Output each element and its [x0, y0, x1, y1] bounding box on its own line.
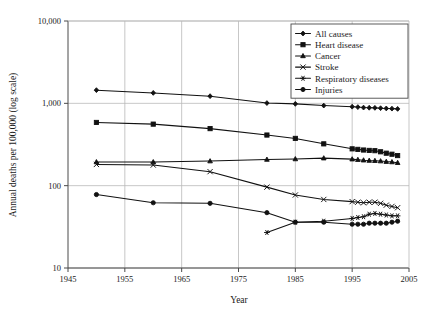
data-point: [395, 106, 399, 111]
data-point: [293, 220, 297, 224]
data-point: [94, 120, 98, 124]
chart-container: 1945195519651975198519952005 101001,0001…: [0, 0, 437, 313]
data-point: [367, 148, 371, 152]
x-tick-label: 2005: [401, 274, 418, 284]
data-point: [356, 105, 360, 110]
data-point: [208, 201, 212, 205]
data-point: [301, 87, 305, 91]
y-tick-labels: 101001,00010,000: [38, 16, 61, 273]
data-point: [396, 219, 400, 223]
chart-legend: All causesHeart diseaseCancerStrokeRespi…: [291, 24, 408, 98]
data-point: [373, 105, 377, 110]
data-point: [208, 127, 212, 131]
data-point: [356, 157, 361, 161]
legend-label: Stroke: [315, 62, 339, 72]
x-tick-label: 1985: [287, 274, 304, 284]
data-point: [293, 101, 297, 106]
data-point: [265, 211, 269, 215]
series-injuries: [94, 192, 399, 226]
x-axis-title: Year: [230, 295, 248, 305]
x-tick-labels: 1945195519651975198519952005: [60, 274, 418, 284]
data-point: [378, 221, 382, 225]
data-point: [384, 151, 388, 155]
data-point: [94, 192, 98, 196]
data-point: [265, 133, 269, 137]
data-point: [208, 94, 212, 99]
series-stroke: [94, 162, 400, 210]
data-series-group: [94, 88, 401, 235]
data-point: [322, 142, 326, 146]
data-point: [356, 222, 360, 226]
data-point: [366, 212, 372, 217]
data-point: [265, 101, 269, 106]
data-point: [350, 157, 355, 161]
data-point: [390, 220, 394, 224]
data-point: [378, 159, 383, 163]
y-tick-label: 10,000: [38, 16, 61, 26]
data-point: [356, 147, 360, 151]
data-point: [389, 213, 395, 218]
data-point: [293, 136, 297, 140]
data-point: [151, 90, 155, 95]
data-point: [361, 105, 365, 110]
y-tick-label: 100: [48, 181, 61, 191]
data-point: [390, 160, 395, 164]
x-tick-label: 1945: [60, 274, 77, 284]
data-point: [301, 43, 305, 47]
legend-label: All causes: [315, 29, 353, 39]
data-point: [151, 201, 155, 205]
legend-label: Respiratory diseases: [315, 74, 389, 84]
data-point: [373, 149, 377, 153]
data-point: [151, 122, 155, 126]
data-point: [94, 88, 98, 93]
y-axis-title: Annual deaths per 100,000 (log scale): [8, 73, 19, 218]
data-point: [378, 106, 382, 111]
data-point: [322, 103, 326, 108]
data-point: [367, 221, 371, 225]
series-cancer: [94, 156, 400, 165]
data-point: [208, 159, 213, 163]
x-tick-label: 1965: [173, 274, 190, 284]
y-tick-label: 1,000: [42, 98, 61, 108]
line-chart: 1945195519651975198519952005 101001,0001…: [0, 0, 437, 313]
data-point: [321, 156, 326, 160]
data-point: [373, 221, 377, 225]
data-point: [390, 106, 394, 111]
data-point: [350, 222, 354, 226]
data-point: [390, 152, 394, 156]
data-point: [350, 104, 354, 109]
legend-label: Cancer: [315, 51, 340, 61]
data-point: [373, 158, 378, 162]
data-point: [395, 213, 401, 218]
data-point: [367, 105, 371, 110]
data-point: [361, 214, 367, 219]
x-tick-label: 1975: [230, 274, 247, 284]
data-point: [384, 221, 388, 225]
y-tick-label: 10: [53, 263, 62, 273]
data-point: [361, 148, 365, 152]
data-point: [383, 213, 389, 218]
data-point: [384, 106, 388, 111]
data-point: [361, 222, 365, 226]
data-point: [384, 159, 389, 163]
data-point: [378, 150, 382, 154]
data-point: [355, 215, 361, 220]
data-point: [350, 147, 354, 151]
data-point: [322, 220, 326, 224]
data-point: [265, 157, 270, 161]
data-point: [396, 153, 400, 157]
y-axis-ticks: [64, 21, 68, 268]
series-heart-disease: [94, 120, 399, 157]
data-point: [293, 157, 298, 161]
data-point: [361, 158, 366, 162]
x-axis-ticks: [68, 268, 409, 272]
data-point: [264, 230, 270, 235]
x-tick-label: 1995: [344, 274, 361, 284]
data-point: [367, 158, 372, 162]
x-tick-label: 1955: [116, 274, 133, 284]
data-point: [395, 160, 400, 164]
legend-label: Heart disease: [315, 40, 363, 50]
data-point: [372, 211, 378, 216]
data-point: [378, 212, 384, 217]
legend-label: Injuries: [315, 85, 343, 95]
